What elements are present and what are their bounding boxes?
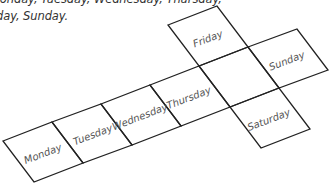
week-net-diagram: Monday Tuesday Wednesday Thursday Friday… bbox=[0, 0, 333, 189]
label-monday: Monday bbox=[22, 141, 64, 166]
label-saturday: Saturday bbox=[246, 106, 293, 133]
label-thursday: Thursday bbox=[165, 84, 213, 111]
cell-intersection bbox=[199, 47, 279, 107]
label-sunday: Sunday bbox=[267, 49, 307, 73]
label-tuesday: Tuesday bbox=[72, 122, 115, 147]
label-friday: Friday bbox=[191, 28, 225, 50]
label-wednesday: Wednesday bbox=[110, 101, 170, 133]
